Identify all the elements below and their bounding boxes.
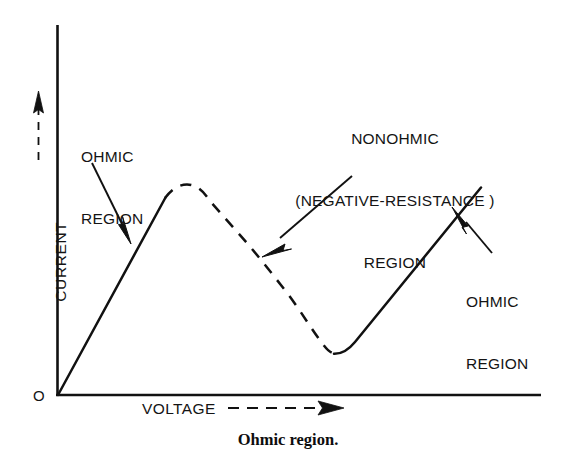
x-axis-label: VOLTAGE bbox=[142, 399, 216, 420]
annotation-ohmic-region-left: OHMIC REGION bbox=[81, 106, 143, 250]
voltage-axis-arrow-icon bbox=[228, 401, 344, 415]
y-axis-label: CURRENT bbox=[30, 182, 71, 352]
annotation-ohmic-left-line1: OHMIC bbox=[81, 147, 143, 168]
current-axis-arrow-icon bbox=[34, 91, 44, 160]
annotation-ohmic-region-right: OHMIC REGION bbox=[466, 251, 528, 395]
annotation-nonohmic-line1: NONOHMIC bbox=[280, 129, 510, 150]
annotation-nonohmic-line2: (NEGATIVE-RESISTANCE ) bbox=[280, 191, 510, 212]
figure-caption: Ohmic region. bbox=[0, 430, 576, 450]
y-axis-label-text: CURRENT bbox=[52, 222, 69, 302]
annotation-ohmic-right-line1: OHMIC bbox=[466, 292, 528, 313]
origin-label: O bbox=[33, 386, 45, 406]
annotation-ohmic-left-line2: REGION bbox=[81, 209, 143, 230]
annotation-ohmic-right-line2: REGION bbox=[466, 354, 528, 375]
